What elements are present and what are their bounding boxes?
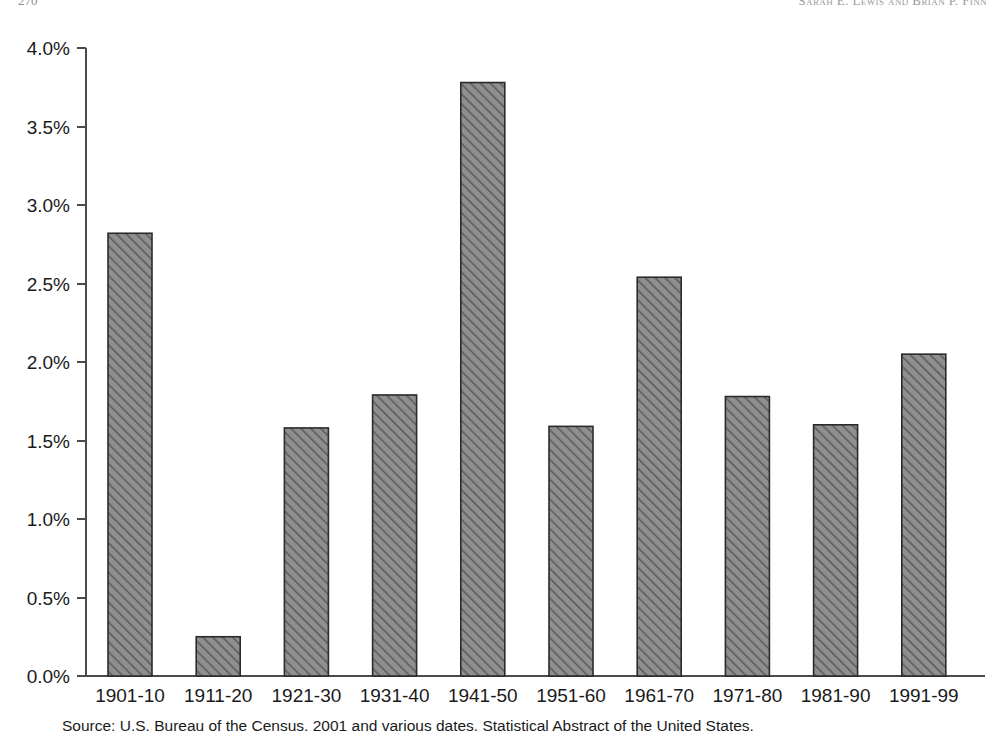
x-axis-tick-label: 1911-20 xyxy=(184,685,252,706)
source-note: Source: U.S. Bureau of the Census. 2001 … xyxy=(62,717,754,735)
x-axis-tick-label: 1961-70 xyxy=(624,685,694,706)
x-axis-tick-label: 1981-90 xyxy=(801,685,871,706)
y-axis-tick-label: 2.0% xyxy=(27,352,70,373)
bar xyxy=(284,428,328,676)
bar xyxy=(196,637,240,676)
y-axis-tick-label: 2.5% xyxy=(27,274,70,295)
bar xyxy=(814,425,858,676)
bar xyxy=(549,426,593,676)
bar-series xyxy=(108,83,946,676)
x-axis-tick-label: 1951-60 xyxy=(536,685,606,706)
y-axis: 0.0%0.5%1.0%1.5%2.0%2.5%3.0%3.5%4.0% xyxy=(27,38,86,687)
x-axis-tick-label: 1971-80 xyxy=(713,685,783,706)
bar xyxy=(461,83,505,676)
bar xyxy=(108,233,152,676)
y-axis-tick-label: 1.5% xyxy=(27,431,70,452)
bar xyxy=(725,397,769,676)
y-axis-tick-label: 0.0% xyxy=(27,666,70,687)
x-axis-tick-label: 1921-30 xyxy=(272,685,342,706)
chart-canvas: 0.0%0.5%1.0%1.5%2.0%2.5%3.0%3.5%4.0% 190… xyxy=(0,0,1007,752)
y-axis-tick-label: 0.5% xyxy=(27,588,70,609)
x-axis-tick-label: 1901-10 xyxy=(95,685,165,706)
x-axis-tick-label: 1931-40 xyxy=(360,685,430,706)
x-axis-tick-label: 1941-50 xyxy=(448,685,518,706)
y-axis-tick-label: 3.5% xyxy=(27,117,70,138)
bar xyxy=(902,354,946,676)
x-axis-tick-label: 1991-99 xyxy=(889,685,959,706)
y-axis-tick-label: 1.0% xyxy=(27,509,70,530)
y-axis-tick-label: 3.0% xyxy=(27,195,70,216)
bar xyxy=(373,395,417,676)
bar xyxy=(637,277,681,676)
bar-chart: 0.0%0.5%1.0%1.5%2.0%2.5%3.0%3.5%4.0% 190… xyxy=(0,0,1007,752)
y-axis-tick-label: 4.0% xyxy=(27,38,70,59)
x-axis-tick-labels: 1901-101911-201921-301931-401941-501951-… xyxy=(95,685,959,706)
